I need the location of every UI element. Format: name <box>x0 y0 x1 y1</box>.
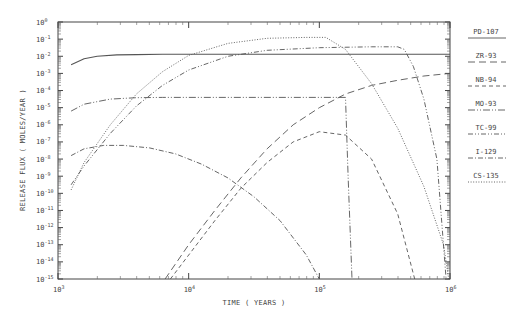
legend-label: NB-94 <box>475 76 496 84</box>
release-flux-chart: 10010-110-210-310-410-510-610-710-810-91… <box>0 0 522 321</box>
legend-item: NB-94 <box>468 76 506 86</box>
series-nb-94 <box>170 132 414 279</box>
legend-item: CS-135 <box>468 172 506 182</box>
legend-item: ZR-93 <box>468 52 506 62</box>
x-tick-label: 103 <box>53 284 64 294</box>
x-axis-title: TIME ( YEARS ) <box>222 299 285 307</box>
y-tick-label: 10-3 <box>36 68 50 78</box>
x-tick-label: 104 <box>184 284 195 294</box>
series-tc-99 <box>71 47 446 279</box>
y-tick-label: 10-7 <box>36 136 50 146</box>
y-tick-label: 10-15 <box>36 274 53 284</box>
plot-border <box>58 22 450 279</box>
legend-label: ZR-93 <box>475 52 496 60</box>
y-tick-label: 10-10 <box>36 188 53 198</box>
legend-item: PD-107 <box>468 28 506 38</box>
y-tick-label: 10-12 <box>36 222 53 232</box>
series-i-129 <box>71 145 319 279</box>
legend-item: MO-93 <box>468 100 506 110</box>
y-tick-label: 10-9 <box>36 171 50 181</box>
y-tick-label: 10-2 <box>36 51 50 61</box>
legend-label: MO-93 <box>475 100 496 108</box>
y-tick-label: 10-5 <box>36 102 50 112</box>
x-tick-label: 106 <box>445 284 456 294</box>
legend-label: TC-99 <box>475 124 496 132</box>
legend-label: PD-107 <box>473 28 498 36</box>
legend: PD-107ZR-93NB-94MO-93TC-99I-129CS-135 <box>468 28 506 182</box>
y-tick-label: 10-8 <box>36 154 50 164</box>
y-tick-label: 10-14 <box>36 256 53 266</box>
y-tick-label: 10-11 <box>36 205 53 215</box>
legend-label: CS-135 <box>473 172 498 180</box>
legend-item: I-129 <box>468 148 506 158</box>
y-tick-label: 100 <box>36 17 47 27</box>
legend-item: TC-99 <box>468 124 506 134</box>
y-axis-title: RELEASE FLUX ( MOLES/YEAR ) <box>19 89 27 211</box>
y-tick-label: 10-13 <box>36 239 53 249</box>
y-tick-label: 10-4 <box>36 85 50 95</box>
x-tick-label: 105 <box>314 284 325 294</box>
x-axis-ticks: 103104105106 <box>53 22 456 294</box>
y-tick-label: 10-6 <box>36 119 50 129</box>
plot-frame <box>58 22 450 279</box>
series-mo-93 <box>71 97 352 279</box>
y-tick-label: 10-1 <box>36 34 50 44</box>
series-zr-93 <box>165 73 450 279</box>
series-pd-107 <box>71 54 450 65</box>
legend-label: I-129 <box>475 148 496 156</box>
series-lines <box>71 37 450 279</box>
series-cs-135 <box>71 37 449 279</box>
